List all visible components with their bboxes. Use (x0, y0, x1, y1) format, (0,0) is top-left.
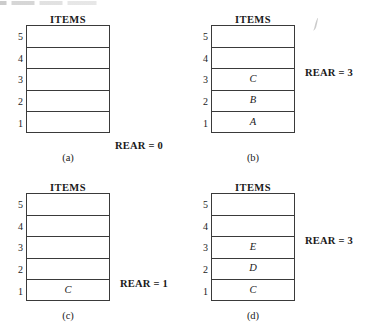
items-column-header: ITEMS (26, 182, 110, 193)
queue-cell-5[interactable]: 5 (212, 26, 294, 48)
queue-stack-a: 5 4 3 2 1 (26, 25, 110, 133)
queue-cell-1[interactable]: 1 C (27, 280, 109, 302)
items-column-header: ITEMS (211, 14, 295, 25)
row-index-1: 1 (11, 112, 23, 134)
queue-cell-value: C (249, 285, 256, 297)
queue-cell-4[interactable]: 4 (212, 216, 294, 238)
queue-cell-4[interactable]: 4 (27, 48, 109, 70)
row-index-2: 2 (11, 91, 23, 113)
row-index-5: 5 (196, 26, 208, 48)
queue-cell-1[interactable]: 1 (27, 112, 109, 134)
panel-caption-a: (a) (26, 152, 110, 163)
items-column-header: ITEMS (26, 14, 110, 25)
queue-cell-value: C (249, 74, 256, 86)
row-index-1: 1 (196, 112, 208, 134)
items-column-header: ITEMS (211, 182, 295, 193)
queue-cell-value: E (250, 242, 256, 254)
queue-cell-2[interactable]: 2 (27, 91, 109, 113)
panel-caption-b: (b) (211, 152, 295, 163)
queue-cell-5[interactable]: 5 (27, 194, 109, 216)
queue-cell-2[interactable]: 2 (27, 259, 109, 281)
queue-cell-1[interactable]: 1 C (212, 280, 294, 302)
queue-cell-5[interactable]: 5 (27, 26, 109, 48)
queue-stack-d: 5 4 3 E 2 D 1 C (211, 193, 295, 301)
row-index-3: 3 (11, 69, 23, 91)
queue-cell-2[interactable]: 2 B (212, 91, 294, 113)
row-index-3: 3 (196, 237, 208, 259)
panel-caption-d: (d) (211, 310, 295, 321)
queue-cell-3[interactable]: 3 E (212, 237, 294, 259)
queue-cell-1[interactable]: 1 A (212, 112, 294, 134)
row-index-2: 2 (196, 91, 208, 113)
queue-cell-3[interactable]: 3 (27, 69, 109, 91)
row-index-1: 1 (196, 280, 208, 302)
queue-stack-c: 5 4 3 2 1 C (26, 193, 110, 301)
row-index-4: 4 (196, 48, 208, 70)
row-index-3: 3 (196, 69, 208, 91)
queue-cell-value: C (64, 285, 71, 297)
queue-cell-value: B (250, 95, 256, 107)
queue-cell-value: D (249, 263, 257, 275)
panel-caption-c: (c) (26, 310, 110, 321)
row-index-2: 2 (196, 259, 208, 281)
queue-cell-3[interactable]: 3 (27, 237, 109, 259)
scan-artifact-top (0, 1, 118, 5)
queue-cell-4[interactable]: 4 (212, 48, 294, 70)
queue-stack-b: 5 4 3 C 2 B 1 A (211, 25, 295, 133)
queue-cell-5[interactable]: 5 (212, 194, 294, 216)
row-index-1: 1 (11, 280, 23, 302)
row-index-3: 3 (11, 237, 23, 259)
row-index-4: 4 (11, 48, 23, 70)
queue-cell-2[interactable]: 2 D (212, 259, 294, 281)
queue-cell-4[interactable]: 4 (27, 216, 109, 238)
row-index-2: 2 (11, 259, 23, 281)
rear-label-b: REAR = 3 (305, 67, 353, 78)
scan-speck-icon (311, 17, 320, 31)
row-index-4: 4 (11, 216, 23, 238)
row-index-5: 5 (11, 194, 23, 216)
queue-cell-value: A (250, 117, 256, 129)
rear-label-d: REAR = 3 (305, 235, 353, 246)
rear-label-c: REAR = 1 (120, 278, 168, 289)
row-index-5: 5 (11, 26, 23, 48)
row-index-4: 4 (196, 216, 208, 238)
queue-cell-3[interactable]: 3 C (212, 69, 294, 91)
rear-label-a: REAR = 0 (115, 140, 163, 151)
row-index-5: 5 (196, 194, 208, 216)
